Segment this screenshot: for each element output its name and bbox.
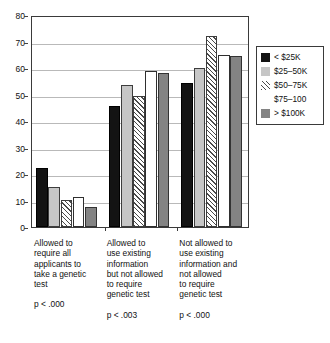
legend-item[interactable]: > $100K (261, 107, 319, 120)
group-separator-tick (177, 227, 178, 231)
bar (230, 56, 242, 227)
legend-swatch-icon (261, 109, 270, 118)
bar (109, 106, 121, 227)
grouped-bar-chart: 01020304050607080 < $25K$25–50K$50–75K$7… (0, 0, 330, 343)
y-axis-tick-mark (24, 228, 28, 229)
category-label-text: Not allowed to use existing information … (179, 238, 248, 300)
legend-item[interactable]: $25–50K (261, 65, 319, 78)
plot-frame (31, 16, 249, 228)
y-axis-tick-mark (24, 175, 28, 176)
legend-item[interactable]: $50–75K (261, 79, 319, 92)
y-axis-tick-mark (24, 96, 28, 97)
y-axis-tick-mark (24, 43, 28, 44)
bar (206, 36, 218, 227)
legend-swatch-icon (261, 81, 270, 90)
bar (158, 73, 170, 227)
bar (121, 85, 133, 227)
category-label: Allowed to use existing information but … (107, 238, 176, 320)
bar (181, 83, 193, 227)
bars-layer (32, 17, 248, 227)
legend-item-label: $25–50K (274, 67, 307, 76)
bar (48, 187, 60, 227)
y-axis-tick-mark (24, 149, 28, 150)
y-axis-tick-mark (24, 122, 28, 123)
group-separator-tick (105, 227, 106, 231)
category-label: Not allowed to use existing information … (179, 238, 248, 320)
legend-swatch-icon (261, 95, 270, 104)
legend-item-label: > $100K (274, 109, 305, 118)
bar (133, 96, 145, 227)
legend-swatch-icon (261, 53, 270, 62)
legend-item-label: $75–100 (274, 95, 306, 104)
p-value-annotation: p < .003 (107, 310, 176, 320)
bar (194, 68, 206, 227)
bar (73, 197, 85, 227)
bar (85, 207, 97, 227)
category-label-text: Allowed to use existing information but … (107, 238, 176, 300)
bar (145, 71, 157, 227)
p-value-annotation: p < .000 (34, 299, 103, 309)
category-labels: Allowed to require all applicants to tak… (0, 238, 330, 343)
legend-item[interactable]: $75–100 (261, 93, 319, 106)
category-label: Allowed to require all applicants to tak… (34, 238, 103, 310)
category-label-text: Allowed to require all applicants to tak… (34, 238, 103, 289)
legend: < $25K$25–50K$50–75K$75–100> $100K (256, 46, 324, 125)
bar (218, 55, 230, 227)
legend-item-label: < $25K (274, 53, 301, 62)
legend-swatch-icon (261, 67, 270, 76)
legend-item-label: $50–75K (274, 81, 307, 90)
p-value-annotation: p < .000 (179, 310, 248, 320)
y-axis-tick-mark (24, 69, 28, 70)
bar (36, 168, 48, 227)
legend-item[interactable]: < $25K (261, 51, 319, 64)
y-axis-tick-mark (24, 16, 28, 17)
y-axis-tick-mark (24, 202, 28, 203)
bar (61, 200, 73, 227)
y-axis: 01020304050607080 (0, 0, 28, 240)
